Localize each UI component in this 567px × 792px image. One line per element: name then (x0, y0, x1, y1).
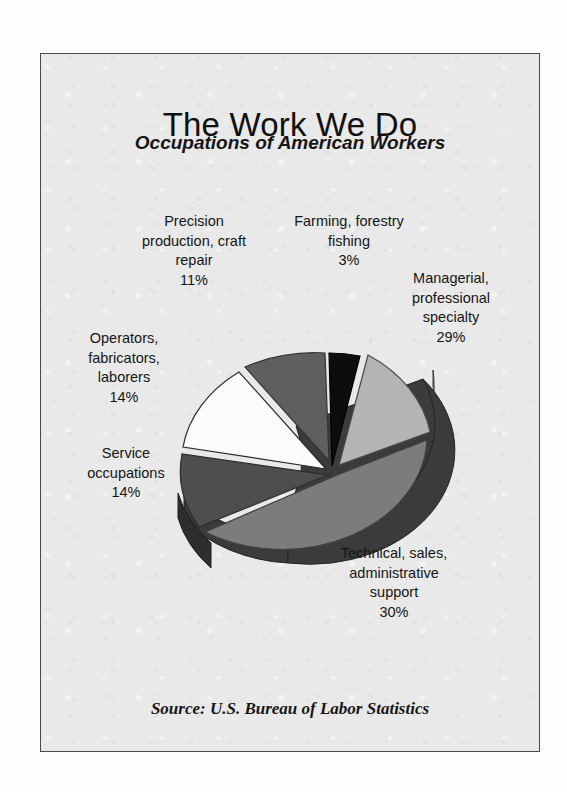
label-service-occupations: Service occupations 14% (51, 444, 201, 503)
label-precision-production: Precision production, craft repair 11% (119, 212, 269, 290)
source-note: Source: U.S. Bureau of Labor Statistics (41, 699, 539, 719)
label-farming-forestry: Farming, forestry fishing 3% (274, 212, 424, 271)
label-operators-fabricators: Operators, fabricators, laborers 14% (49, 329, 199, 407)
chart-frame: The Work We Do Occupations of American W… (40, 53, 540, 752)
label-managerial-professional: Managerial, professional specialty 29% (376, 269, 526, 347)
label-technical-sales: Technical, sales, administrative support… (309, 544, 479, 622)
scanned-page: The Work We Do Occupations of American W… (0, 0, 567, 792)
